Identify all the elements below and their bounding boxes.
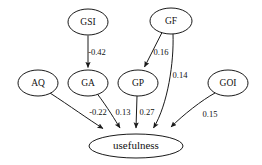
edge-gf-gp: 0.16: [145, 33, 169, 68]
edge-label-gf-usefulness: 0.14: [173, 70, 189, 80]
edge-label-gf-gp: 0.16: [154, 47, 169, 57]
node-goi[interactable]: GOI: [208, 70, 248, 96]
node-gf[interactable]: GF: [150, 8, 192, 34]
node-label-aq: AQ: [31, 78, 45, 88]
node-usefulness[interactable]: usefulness: [89, 134, 183, 158]
edge-gsi-ga: -0.42: [88, 36, 106, 68]
edge-label-gp-usefulness: 0.27: [140, 107, 155, 117]
node-gp[interactable]: GP: [118, 70, 158, 96]
node-label-usefulness: usefulness: [113, 139, 159, 151]
node-label-goi: GOI: [220, 78, 237, 88]
edge-label-goi-usefulness: 0.15: [203, 109, 218, 119]
node-aq[interactable]: AQ: [18, 70, 58, 96]
node-label-gsi: GSI: [80, 17, 95, 27]
node-ga[interactable]: GA: [68, 70, 108, 96]
path-diagram-canvas: -0.42 0.16 0.14 -0.22 0.13 0.27: [0, 0, 262, 165]
edge-gp-usefulness: 0.27: [136, 96, 154, 128]
edge-goi-usefulness: 0.15: [171, 93, 217, 127]
node-label-ga: GA: [81, 78, 95, 88]
path-diagram-svg: -0.42 0.16 0.14 -0.22 0.13 0.27: [0, 0, 262, 165]
node-label-gf: GF: [165, 16, 177, 26]
node-gsi[interactable]: GSI: [68, 9, 108, 35]
edge-label-ga-usefulness: 0.13: [116, 107, 131, 117]
node-label-gp: GP: [132, 78, 144, 88]
edge-label-gsi-ga: -0.42: [88, 47, 106, 57]
edge-line-gp-usefulness: [136, 96, 137, 128]
edge-aq-usefulness: -0.22: [50, 93, 107, 129]
edge-label-aq-usefulness: -0.22: [89, 107, 107, 117]
